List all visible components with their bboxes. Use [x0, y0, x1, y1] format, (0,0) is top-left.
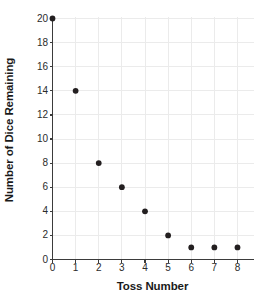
x-axis-tick-label: 8: [228, 263, 248, 273]
x-axis-tick-label: 4: [135, 263, 155, 273]
grid-lines: [53, 17, 254, 260]
x-axis-tick-label: 6: [181, 263, 201, 273]
data-point: [188, 245, 194, 251]
data-point: [165, 233, 171, 239]
x-axis-tick-label: 2: [89, 263, 109, 273]
scatter-plot-figure: Number of Dice Remaining 024681012141618…: [0, 0, 271, 300]
axis-lines: [53, 17, 254, 260]
x-axis-tick-label: 0: [43, 263, 63, 273]
x-axis-title: Toss Number: [52, 280, 253, 292]
x-axis-tick-label: 7: [204, 263, 224, 273]
data-point: [50, 16, 56, 22]
data-point: [73, 88, 79, 94]
x-axis-tick-label: 3: [112, 263, 132, 273]
data-point: [119, 184, 125, 190]
data-point: [142, 208, 148, 214]
data-point: [96, 160, 102, 166]
plot-canvas: [0, 0, 271, 300]
x-axis-tick-label: 1: [66, 263, 86, 273]
axis-tick-marks: [50, 19, 238, 263]
data-point: [211, 245, 217, 251]
x-axis-tick-label: 5: [158, 263, 178, 273]
data-point: [235, 245, 241, 251]
